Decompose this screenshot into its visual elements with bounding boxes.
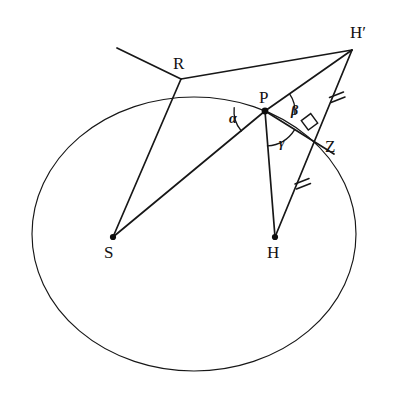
vertex-dot-h	[272, 234, 278, 240]
ray-through-R-upper-left	[117, 48, 181, 79]
label-point-h-prime: H′	[350, 24, 366, 41]
label-point-s: S	[104, 244, 113, 261]
label-angle-beta: β	[291, 104, 298, 118]
vertex-dot-p	[262, 108, 269, 115]
segment-R-to-H-prime	[181, 50, 352, 79]
segment-layer	[113, 48, 352, 237]
label-angle-gamma: γ	[279, 136, 284, 149]
label-point-z: Z	[325, 138, 335, 155]
right-angle-square-icon	[301, 114, 317, 130]
vertex-dot-layer	[110, 108, 278, 241]
congruence-tick-layer	[295, 92, 345, 189]
label-point-r: R	[173, 55, 184, 72]
geometry-canvas	[0, 0, 393, 399]
segment-H-prime-to-H	[275, 50, 352, 237]
geometry-figure: S H P R H′ Z α β γ	[0, 0, 393, 399]
label-angle-alpha: α	[229, 112, 237, 126]
segment-P-to-H	[265, 111, 275, 237]
vertex-dot-s	[110, 234, 116, 240]
congruence-tick-on-z-h	[295, 179, 311, 190]
label-point-h: H	[267, 244, 279, 261]
label-point-p: P	[259, 89, 268, 106]
segment-S-to-P	[113, 111, 265, 237]
